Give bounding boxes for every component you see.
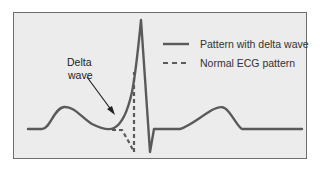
annotation-delta-label: Delta (67, 56, 92, 68)
legend-label-delta-pattern: Pattern with delta wave (200, 38, 309, 50)
annotation-wave-label: wave (67, 69, 93, 81)
ecg-diagram: Delta wave Pattern with delta wave Norma… (0, 0, 324, 182)
annotation-arrow-line (87, 77, 112, 111)
annotation-arrow-head-icon (107, 106, 115, 115)
legend-label-normal-pattern: Normal ECG pattern (200, 57, 295, 69)
normal-ecg-trace (112, 72, 134, 152)
